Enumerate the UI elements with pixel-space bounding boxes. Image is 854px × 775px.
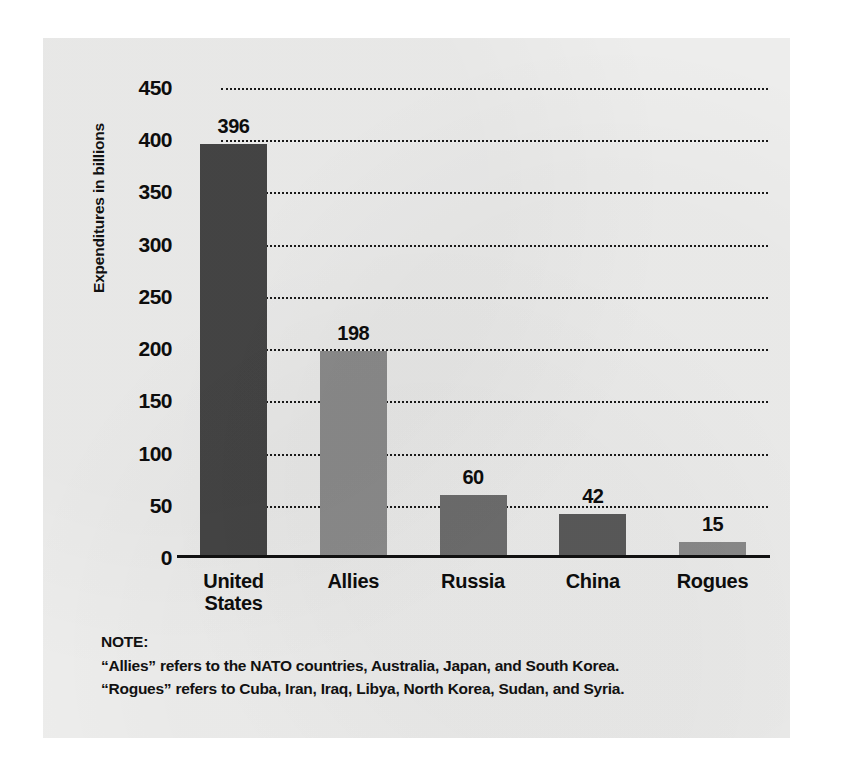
x-axis-category-label: China	[533, 570, 652, 592]
screenshot-root: Expenditures in billions 450400350300250…	[0, 0, 854, 775]
bar-group[interactable]: 396UnitedStates	[200, 88, 267, 558]
y-axis-tick-label: 450	[80, 76, 172, 100]
bar-group[interactable]: 198Allies	[320, 88, 387, 558]
bar[interactable]	[559, 514, 626, 558]
y-axis-tick-label: 100	[80, 442, 172, 466]
y-axis-tick-label: 150	[80, 389, 172, 413]
note-line-rogues: “Rogues” refers to Cuba, Iran, Iraq, Lib…	[101, 677, 741, 700]
y-axis-tick-label: 200	[80, 337, 172, 361]
bar-series: 396UnitedStates198Allies60Russia42China1…	[178, 88, 768, 558]
bar[interactable]	[200, 144, 267, 558]
note-line-allies: “Allies” refers to the NATO countries, A…	[101, 654, 741, 677]
bar-value-label: 198	[306, 322, 401, 345]
bar-group[interactable]: 60Russia	[440, 88, 507, 558]
plot-area: 450400350300250200150100500 396UnitedSta…	[178, 88, 768, 558]
note-heading: NOTE:	[101, 633, 741, 651]
y-axis-tick-label: 350	[80, 180, 172, 204]
bar-group[interactable]: 15Rogues	[679, 88, 746, 558]
bar-value-label: 15	[665, 513, 760, 536]
bar-value-label: 396	[186, 115, 281, 138]
bar-value-label: 60	[426, 466, 521, 489]
y-axis-tick-label: 300	[80, 233, 172, 257]
x-axis-category-label: Russia	[414, 570, 533, 592]
y-axis-tick-label: 50	[80, 494, 172, 518]
x-axis-category-label: Allies	[294, 570, 413, 592]
bar[interactable]	[320, 351, 387, 558]
x-axis-category-label: UnitedStates	[174, 570, 293, 615]
note-block: NOTE: “Allies” refers to the NATO countr…	[101, 633, 741, 701]
y-axis-tick-label: 400	[80, 128, 172, 152]
chart-card: Expenditures in billions 450400350300250…	[43, 38, 790, 738]
x-axis-category-label: Rogues	[653, 570, 772, 592]
bar[interactable]	[440, 495, 507, 558]
y-axis-tick-label: 0	[80, 546, 172, 570]
x-axis-line	[177, 555, 770, 558]
y-axis-tick-label: 250	[80, 285, 172, 309]
bar-group[interactable]: 42China	[559, 88, 626, 558]
bar-value-label: 42	[545, 485, 640, 508]
